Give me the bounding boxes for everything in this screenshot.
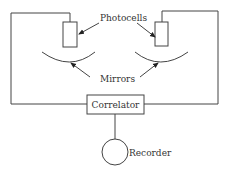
correlator-label: Correlator bbox=[92, 100, 141, 110]
mirrors-arrow-left bbox=[71, 63, 90, 77]
mirrors-arrow-right bbox=[140, 63, 158, 77]
photocells-arrow-left bbox=[79, 23, 99, 34]
right-photocell bbox=[155, 22, 168, 46]
mirrors-label: Mirrors bbox=[100, 74, 135, 84]
photocells-label: Photocells bbox=[100, 13, 147, 23]
left-photocell bbox=[63, 22, 77, 47]
left-mirror bbox=[42, 52, 95, 62]
right-mirror bbox=[135, 52, 188, 62]
photocells-arrow-right bbox=[137, 23, 155, 37]
intensity-interferometer-diagram: Photocells Mirrors Correlator Recorder bbox=[0, 0, 228, 172]
left-signal-wire bbox=[11, 13, 87, 104]
recorder-label: Recorder bbox=[129, 148, 172, 158]
recorder-circle bbox=[102, 139, 128, 165]
